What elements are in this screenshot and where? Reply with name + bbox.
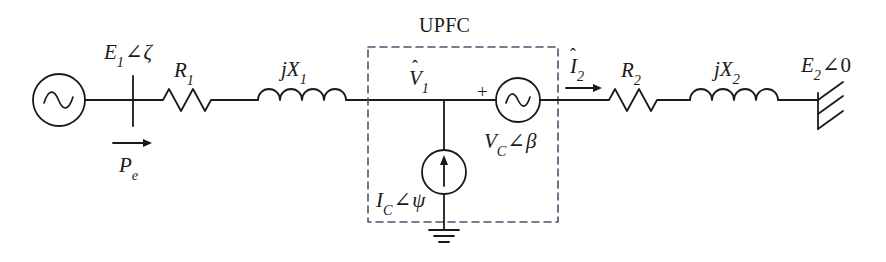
line-current-2-hat-group: ˆI [570, 56, 577, 77]
series-voltage-base: V [484, 129, 497, 153]
shunt-current-phase: ψ [412, 188, 425, 212]
circuit-diagram-canvas: E1∠ζ Pe R1 jX1 UPFC ˆV1 + VC∠β IC∠ψ ˆI2 … [0, 0, 886, 262]
resistor-r1-base: R [174, 58, 187, 82]
power-flow-sub: e [132, 167, 138, 183]
resistor-r2-zigzag [603, 89, 664, 111]
series-voltage-phase: β [526, 129, 536, 153]
line-current-2-arrow-head [593, 84, 602, 92]
reactance-jx2-sub: 2 [733, 71, 740, 87]
series-voltage-source-sine-icon [506, 94, 530, 106]
reactance-jx1-sub: 1 [300, 71, 307, 87]
angle-symbol: ∠ [124, 40, 144, 64]
series-voltage-label: VC∠β [484, 131, 536, 155]
resistor-r2-sub: 2 [634, 72, 641, 88]
resistor-r1-zigzag [157, 89, 218, 111]
shunt-current-angle-symbol: ∠ [393, 188, 413, 212]
infinite-bus-base: E [801, 53, 814, 77]
series-source-polarity-label: + [477, 82, 488, 101]
infinite-bus-fin-2 [818, 96, 843, 114]
power-flow-label: Pe [119, 155, 138, 179]
shunt-current-base: I [376, 188, 383, 212]
shunt-current-label: IC∠ψ [376, 190, 425, 214]
inductor-jx1-coils [258, 89, 346, 100]
infinite-bus-angle-symbol: ∠ [821, 53, 841, 77]
source-voltage-label: E1∠ζ [104, 42, 152, 66]
infinite-bus-label: E2∠0 [801, 55, 851, 79]
source-voltage-phase: ζ [144, 40, 153, 64]
reactance-jx1-base: X [287, 57, 300, 81]
node-voltage-1-sub: 1 [422, 80, 429, 96]
resistor-r1-sub: 1 [187, 72, 194, 88]
ac-source-1-sine-icon [44, 92, 73, 108]
line-current-2-hat: ˆ [570, 47, 576, 65]
node-voltage-1-hat-group: ˆV [409, 68, 422, 89]
power-flow-base: P [119, 153, 132, 177]
node-voltage-1-label: ˆV1 [409, 68, 429, 92]
resistor-r1-label: R1 [174, 60, 194, 84]
series-voltage-angle-symbol: ∠ [506, 129, 526, 153]
node-voltage-1-hat: ˆ [412, 59, 418, 77]
resistor-r2-base: R [621, 58, 634, 82]
resistor-r2-label: R2 [621, 60, 641, 84]
reactance-jx2-label: jX2 [714, 59, 740, 83]
source-voltage-sub: 1 [117, 54, 124, 70]
upfc-box-title: UPFC [419, 15, 470, 35]
inductor-jx2-coils [690, 89, 778, 100]
source-voltage-base: E [104, 40, 117, 64]
infinite-bus-sub: 2 [814, 67, 821, 83]
reactance-jx1-label: jX1 [281, 59, 307, 83]
line-current-2-sub: 2 [577, 68, 584, 84]
shunt-current-source-arrow-head [440, 155, 448, 165]
line-current-2-label: ˆI2 [570, 56, 584, 80]
shunt-current-sub: C [383, 202, 393, 218]
reactance-jx2-base: X [720, 57, 733, 81]
infinite-bus-phase: 0 [841, 53, 852, 77]
infinite-bus-fin-3 [818, 111, 843, 129]
infinite-bus-fin-1 [818, 82, 843, 100]
series-voltage-sub: C [497, 143, 507, 159]
power-flow-arrow-head [143, 139, 152, 147]
